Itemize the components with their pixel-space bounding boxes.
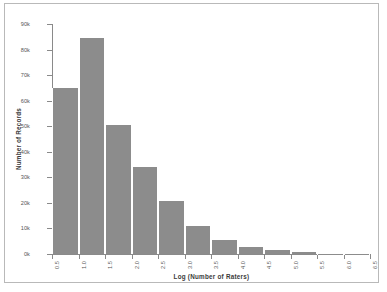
chart-figure: Number of Records 0k10k20k30k40k50k60k70… xyxy=(4,3,379,283)
x-tick-mark xyxy=(344,255,345,259)
x-tick-mark xyxy=(132,255,133,259)
x-tick-label: 2.5 xyxy=(160,261,166,269)
histogram-bar xyxy=(158,201,185,254)
y-tick-label: 10k xyxy=(0,225,30,231)
x-tick-mark xyxy=(79,255,80,259)
histogram-bar xyxy=(52,88,79,254)
x-tick-label: 6.5 xyxy=(372,261,378,269)
x-tick-label: 2.0 xyxy=(134,261,140,269)
y-tick-label: 0k xyxy=(0,251,30,257)
y-tick-label: 60k xyxy=(0,98,30,104)
x-tick-mark xyxy=(105,255,106,259)
x-tick-mark xyxy=(317,255,318,259)
histogram-bar xyxy=(79,38,106,254)
histogram-bar xyxy=(132,167,159,254)
x-tick-mark xyxy=(52,255,53,259)
histogram-bar xyxy=(264,250,291,254)
y-tick-label: 90k xyxy=(0,21,30,27)
x-tick-mark xyxy=(158,255,159,259)
x-tick-mark xyxy=(185,255,186,259)
x-tick-label: 5.5 xyxy=(319,261,325,269)
y-axis-title: Number of Records xyxy=(15,108,22,170)
plot-area xyxy=(52,24,370,254)
x-tick-mark xyxy=(370,255,371,259)
x-tick-label: 1.5 xyxy=(107,261,113,269)
x-tick-label: 6.0 xyxy=(346,261,352,269)
x-axis-title: Log (Number of Raters) xyxy=(52,273,371,280)
y-tick-label: 30k xyxy=(0,174,30,180)
y-tick-label: 20k xyxy=(0,200,30,206)
x-tick-mark xyxy=(211,255,212,259)
histogram-bar xyxy=(238,247,265,254)
histogram-bar xyxy=(291,252,318,254)
x-tick-mark xyxy=(238,255,239,259)
histogram-bar xyxy=(211,240,238,254)
x-tick-label: 4.0 xyxy=(240,261,246,269)
histogram-bar xyxy=(105,125,132,254)
y-tick-label: 70k xyxy=(0,72,30,78)
x-tick-label: 1.0 xyxy=(81,261,87,269)
y-tick-label: 80k xyxy=(0,47,30,53)
x-tick-label: 0.5 xyxy=(54,261,60,269)
y-tick-label: 40k xyxy=(0,149,30,155)
x-tick-label: 5.0 xyxy=(293,261,299,269)
x-tick-mark xyxy=(264,255,265,259)
x-tick-label: 4.5 xyxy=(266,261,272,269)
x-tick-label: 3.5 xyxy=(213,261,219,269)
y-tick-label: 50k xyxy=(0,123,30,129)
histogram-bar xyxy=(185,226,212,254)
x-tick-label: 3.0 xyxy=(187,261,193,269)
x-tick-mark xyxy=(291,255,292,259)
